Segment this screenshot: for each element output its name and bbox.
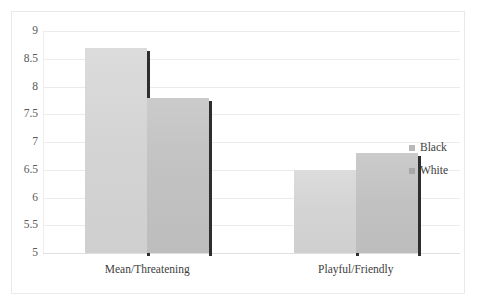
y-tick-label: 8.5 — [24, 53, 38, 65]
chart-figure: 55.566.577.588.59 Mean/ThreateningPlayfu… — [0, 0, 480, 305]
y-tick-label: 6 — [32, 192, 38, 204]
bar-white-1[interactable] — [147, 98, 209, 253]
gridline-5 — [43, 253, 460, 254]
legend-swatch-icon — [409, 145, 415, 151]
bar-group-1 — [85, 31, 209, 253]
y-tick-label: 5.5 — [24, 220, 38, 232]
legend-label: White — [420, 165, 448, 177]
bar-body — [85, 48, 147, 253]
legend-swatch-icon — [409, 168, 415, 174]
x-tick-label: Mean/Threatening — [105, 264, 190, 276]
y-axis-tick-labels: 55.566.577.588.59 — [0, 31, 38, 253]
y-tick-label: 7.5 — [24, 109, 38, 121]
y-tick-label: 7 — [32, 136, 38, 148]
legend-entry-white[interactable]: White — [409, 162, 465, 180]
y-tick-label: 6.5 — [24, 164, 38, 176]
x-axis-tick-labels: Mean/ThreateningPlayful/Friendly — [43, 264, 460, 282]
legend-entry-black[interactable]: Black — [409, 139, 465, 157]
bar-body — [147, 98, 209, 253]
x-tick-label: Playful/Friendly — [318, 264, 393, 276]
y-tick-label: 8 — [32, 81, 38, 93]
bar-shadow — [209, 101, 212, 256]
legend-label: Black — [420, 142, 447, 154]
bar-body — [294, 170, 356, 253]
bar-black-1[interactable] — [85, 48, 147, 253]
y-tick-label: 5 — [32, 247, 38, 259]
bar-black-2[interactable] — [294, 170, 356, 253]
bar-group-2 — [294, 31, 418, 253]
plot-area — [43, 31, 460, 253]
y-tick-label: 9 — [32, 25, 38, 37]
chart-legend: BlackWhite — [409, 139, 465, 185]
